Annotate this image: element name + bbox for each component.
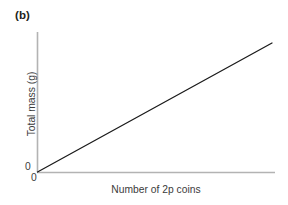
plot-area bbox=[0, 0, 288, 205]
y-axis-tick-zero: 0 bbox=[25, 161, 31, 172]
x-axis-title: Number of 2p coins bbox=[37, 184, 275, 195]
data-line-total-mass bbox=[38, 43, 273, 172]
figure-panel-b: (b) Total mass (g) Number of 2p coins 0 … bbox=[0, 0, 288, 205]
y-axis-title: Total mass (g) bbox=[26, 39, 37, 169]
x-axis-tick-zero: 0 bbox=[31, 172, 37, 183]
